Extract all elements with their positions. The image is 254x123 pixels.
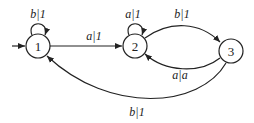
state-2: 2 — [123, 34, 147, 58]
state-1: 1 — [26, 34, 50, 58]
state-3: 3 — [219, 39, 243, 63]
label-edge-2-to-3: b|1 — [174, 7, 189, 21]
label-edge-3-to-2: a|a — [172, 68, 187, 82]
edge-3-to-2 — [145, 54, 220, 69]
label-edge-1-to-2: a|1 — [86, 29, 101, 43]
state-1-label: 1 — [35, 39, 42, 54]
label-self-loop-1: b|1 — [30, 7, 45, 21]
edge-3-to-1 — [47, 56, 226, 99]
label-edge-3-to-1: b|1 — [129, 105, 144, 119]
edge-2-to-3 — [145, 26, 220, 42]
state-3-label: 3 — [228, 44, 235, 59]
self-loop-1 — [31, 24, 46, 35]
state-2-label: 2 — [132, 39, 139, 54]
state-diagram: 1 2 3 b|1 a|1 a|1 b|1 a|a b|1 — [0, 0, 254, 123]
self-loop-2 — [128, 24, 143, 35]
label-self-loop-2: a|1 — [125, 7, 140, 21]
